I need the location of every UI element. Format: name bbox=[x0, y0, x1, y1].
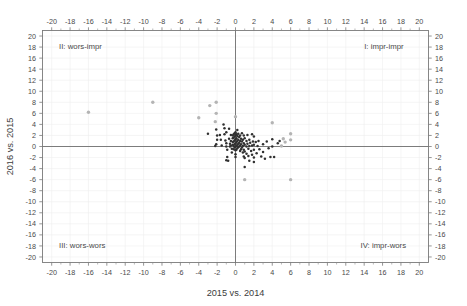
data-points bbox=[87, 101, 293, 182]
data-point bbox=[219, 134, 222, 137]
data-point bbox=[247, 155, 250, 158]
data-point bbox=[214, 145, 217, 148]
data-point bbox=[277, 142, 280, 145]
data-point bbox=[236, 129, 239, 132]
data-point bbox=[225, 142, 228, 145]
y-tick-label-left: 20 bbox=[28, 32, 36, 41]
data-point bbox=[207, 133, 210, 136]
y-tick-label-left: -16 bbox=[26, 230, 36, 239]
y-tick-label-left: 10 bbox=[28, 87, 36, 96]
x-tick-label-top: -8 bbox=[159, 17, 165, 26]
x-tick-label-bottom: 4 bbox=[270, 268, 274, 277]
quadrant-2-label: II: wors-impr bbox=[59, 42, 102, 51]
x-tick-label-bottom: -8 bbox=[159, 268, 165, 277]
data-point bbox=[249, 141, 252, 144]
data-point bbox=[220, 144, 223, 147]
data-point bbox=[248, 145, 251, 148]
data-point bbox=[245, 140, 248, 143]
data-point bbox=[234, 115, 237, 118]
y-tick-label-left: 14 bbox=[28, 65, 36, 74]
y-tick-label-left: -2 bbox=[30, 153, 36, 162]
data-point bbox=[247, 147, 250, 150]
data-point bbox=[243, 166, 246, 169]
y-tick-label-right: -20 bbox=[435, 253, 445, 262]
x-tick-label-top: -18 bbox=[65, 17, 75, 26]
data-point bbox=[264, 157, 267, 160]
x-tick-label-bottom: -4 bbox=[196, 268, 202, 277]
y-tick-label-right: -8 bbox=[435, 186, 441, 195]
x-tick-label-bottom: -12 bbox=[120, 268, 130, 277]
data-point bbox=[234, 153, 237, 156]
data-point bbox=[245, 152, 248, 155]
x-tick-label-bottom: -2 bbox=[214, 268, 220, 277]
data-point bbox=[289, 132, 292, 135]
y-tick-label-right: -2 bbox=[435, 153, 441, 162]
data-point bbox=[250, 150, 253, 153]
x-tick-label-bottom: -18 bbox=[65, 268, 75, 277]
x-tick-label-top: 10 bbox=[323, 17, 331, 26]
y-tick-label-right: -14 bbox=[435, 219, 445, 228]
data-point bbox=[283, 140, 286, 143]
data-point bbox=[243, 178, 246, 181]
x-tick-label-top: 16 bbox=[379, 17, 387, 26]
data-point bbox=[266, 140, 269, 143]
data-point bbox=[231, 151, 234, 154]
x-tick-label-top: 6 bbox=[289, 17, 293, 26]
data-point bbox=[228, 128, 231, 131]
y-tick-label-right: 18 bbox=[435, 43, 443, 52]
x-tick-label-bottom: -20 bbox=[46, 268, 56, 277]
y-tick-label-right: -10 bbox=[435, 197, 445, 206]
y-tick-label-right: 4 bbox=[435, 120, 439, 129]
y-tick-label-left: 0 bbox=[32, 142, 36, 151]
data-point bbox=[253, 135, 256, 138]
x-tick-label-bottom: 20 bbox=[415, 268, 423, 277]
x-tick-label-bottom: 10 bbox=[323, 268, 331, 277]
x-tick-label-top: 0 bbox=[234, 17, 238, 26]
data-point bbox=[216, 139, 219, 142]
data-point bbox=[269, 156, 272, 159]
data-point bbox=[243, 150, 246, 153]
data-point bbox=[223, 127, 226, 130]
data-point bbox=[222, 123, 225, 126]
y-tick-label-left: 4 bbox=[32, 120, 36, 129]
data-point bbox=[289, 178, 292, 181]
data-point bbox=[262, 151, 265, 154]
y-tick-label-left: -10 bbox=[26, 197, 36, 206]
x-tick-label-bottom: 2 bbox=[252, 268, 256, 277]
data-point bbox=[254, 141, 257, 144]
y-tick-label-left: -4 bbox=[30, 164, 36, 173]
y-tick-label-right: -16 bbox=[435, 230, 445, 239]
axis-titles: 2015 vs. 20142016 vs. 2015 bbox=[5, 118, 264, 298]
data-point bbox=[239, 134, 242, 137]
y-tick-label-left: -20 bbox=[26, 253, 36, 262]
y-tick-label-right: -18 bbox=[435, 242, 445, 251]
x-tick-label-top: -2 bbox=[214, 17, 220, 26]
y-tick-label-right: 8 bbox=[435, 98, 439, 107]
x-tick-label-bottom: 6 bbox=[289, 268, 293, 277]
data-point bbox=[251, 133, 254, 136]
data-point bbox=[151, 101, 154, 104]
x-tick-label-bottom: -14 bbox=[102, 268, 112, 277]
x-tick-label-top: 4 bbox=[270, 17, 274, 26]
y-tick-label-right: 6 bbox=[435, 109, 439, 118]
data-point bbox=[241, 132, 244, 135]
data-point bbox=[257, 140, 260, 143]
x-tick-label-top: -12 bbox=[120, 17, 130, 26]
y-tick-label-left: -12 bbox=[26, 208, 36, 217]
y-tick-label-left: 16 bbox=[28, 54, 36, 63]
y-tick-label-right: 16 bbox=[435, 54, 443, 63]
x-tick-label-bottom: 8 bbox=[307, 268, 311, 277]
y-tick-label-right: 12 bbox=[435, 76, 443, 85]
data-point bbox=[234, 131, 237, 134]
data-point bbox=[243, 134, 246, 137]
x-tick-label-bottom: -16 bbox=[83, 268, 93, 277]
quadrant-4-label: IV: impr-wors bbox=[360, 241, 406, 250]
x-tick-label-top: 8 bbox=[307, 17, 311, 26]
data-point bbox=[227, 160, 230, 163]
data-point bbox=[226, 156, 229, 159]
data-point bbox=[262, 143, 265, 146]
data-point bbox=[220, 139, 223, 142]
data-point bbox=[280, 144, 283, 147]
y-tick-label-right: 10 bbox=[435, 87, 443, 96]
y-tick-label-left: 12 bbox=[28, 76, 36, 85]
